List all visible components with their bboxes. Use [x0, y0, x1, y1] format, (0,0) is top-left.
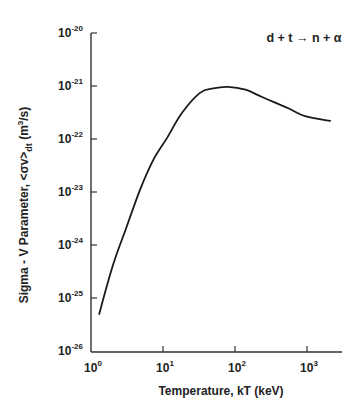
- reaction-annotation: d + t → n + α: [266, 31, 341, 45]
- x-tick-label: 102: [228, 359, 246, 375]
- arrow-icon: →: [296, 31, 309, 45]
- sigma-v-curve: [99, 87, 330, 314]
- y-tick-label: 10-24: [58, 236, 83, 252]
- annotation-reactants: d + t: [266, 31, 293, 45]
- y-tick-label: 10-23: [58, 183, 83, 199]
- y-tick-label: 10-25: [58, 289, 83, 305]
- y-axis-title-unit-post: /s): [17, 107, 31, 121]
- x-ticks: 100101102103: [84, 346, 318, 375]
- axes: 10-2010-2110-2210-2310-2410-2510-26 1001…: [58, 24, 342, 375]
- x-axis-title: Temperature, kT (keV): [158, 384, 283, 398]
- y-tick-label: 10-20: [58, 24, 83, 40]
- y-tick-label: 10-22: [58, 130, 83, 146]
- x-tick-label: 101: [156, 359, 174, 375]
- x-tick-label: 103: [300, 359, 318, 375]
- y-tick-label: 10-26: [58, 342, 83, 358]
- y-axis-title-subscript: dt: [24, 143, 34, 152]
- y-axis-title-unit-pre: (m: [17, 125, 31, 143]
- y-axis-title: Sigma - V Parameter, <σv>dt (m3/s): [16, 107, 34, 304]
- y-tick-label: 10-21: [58, 77, 83, 93]
- chart-figure: 10-2010-2110-2210-2310-2410-2510-26 1001…: [0, 0, 361, 419]
- annotation-products: n + α: [312, 31, 342, 45]
- y-axis-title-main: Sigma - V Parameter, <σv>: [17, 152, 31, 304]
- x-tick-label: 100: [84, 359, 102, 375]
